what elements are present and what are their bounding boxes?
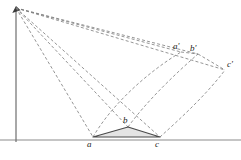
label-b: b (123, 116, 128, 125)
label-c-prime: c' (227, 60, 233, 69)
dashed-triangle-segments (181, 52, 225, 70)
triangle-abc (93, 127, 160, 137)
label-c: c (155, 140, 159, 149)
projection-arcs (93, 52, 225, 137)
arc-b-to-b-prime (128, 54, 198, 127)
figure-canvas (0, 0, 241, 160)
label-b-prime: b' (190, 44, 196, 53)
arc-a-to-a-prime (93, 52, 181, 137)
label-a: a (87, 140, 92, 149)
label-a-prime: a' (173, 42, 179, 51)
ray-apex-c-prime (16, 8, 225, 70)
projection-rays (16, 8, 225, 137)
ray-apex-b-prime (16, 8, 198, 54)
seg-bp-cp (198, 54, 225, 70)
ray-apex-b (16, 8, 128, 127)
geometry-figure: abca'b'c' (0, 0, 241, 160)
